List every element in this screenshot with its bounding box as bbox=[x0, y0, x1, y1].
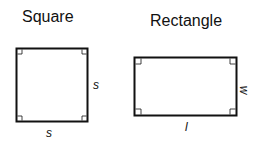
square-side-label-right: s bbox=[93, 79, 99, 91]
square-side-label-bottom: s bbox=[46, 127, 52, 139]
square-shape bbox=[17, 49, 88, 122]
rectangle-side-label-right: w bbox=[238, 86, 250, 95]
rectangle-shape bbox=[135, 58, 237, 116]
rectangle-title: Rectangle bbox=[150, 13, 222, 29]
rectangle-side-label-bottom: l bbox=[185, 121, 188, 133]
square-title: Square bbox=[22, 9, 74, 25]
